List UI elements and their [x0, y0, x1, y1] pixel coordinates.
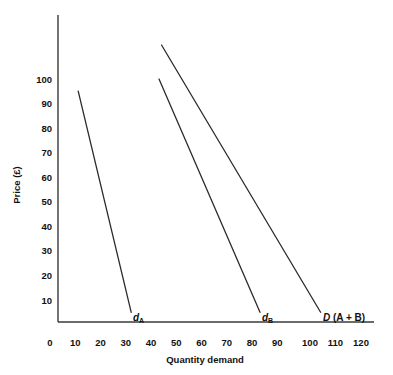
curve-label-db-subscript: B: [268, 317, 273, 324]
curve-db: [159, 79, 260, 312]
x-axis-tick-labels: 0 10 20 30 40 50 60 70 80 90 100 110 120: [47, 337, 369, 348]
y-tick-label-50: 50: [41, 196, 52, 207]
y-axis-tick-labels: 10 20 30 40 50 60 70 80 90 100: [36, 74, 52, 306]
demand-curves: [78, 45, 320, 312]
x-tick-label-0: 0: [47, 337, 52, 348]
curve-label-d-ab-suffix: (A + B): [330, 312, 365, 323]
chart-axes: [58, 15, 374, 322]
y-tick-label-60: 60: [41, 172, 52, 183]
x-tick-label-10: 10: [70, 337, 81, 348]
y-tick-label-30: 30: [41, 245, 52, 256]
x-tick-label-50: 50: [171, 337, 182, 348]
x-tick-label-40: 40: [146, 337, 157, 348]
x-tick-label-70: 70: [222, 337, 233, 348]
x-axis-title: Quantity demand: [166, 354, 244, 365]
y-tick-label-10: 10: [41, 295, 52, 306]
x-tick-label-100: 100: [302, 337, 318, 348]
y-tick-label-70: 70: [41, 147, 52, 158]
x-tick-label-90: 90: [272, 337, 283, 348]
curve-label-d-ab: D (A + B): [323, 312, 365, 323]
curve-label-d-ab-symbol: D: [323, 312, 330, 323]
curve-label-db: dB: [262, 312, 273, 325]
curve-d-ab: [162, 45, 321, 312]
x-tick-label-60: 60: [196, 337, 207, 348]
y-tick-label-40: 40: [41, 221, 52, 232]
curve-label-da-subscript: A: [139, 317, 144, 324]
x-tick-label-120: 120: [353, 337, 369, 348]
y-tick-label-100: 100: [36, 74, 52, 85]
y-tick-label-80: 80: [41, 123, 52, 134]
demand-curve-chart: 10 20 30 40 50 60 70 80 90 100 0 10 20 3…: [0, 0, 393, 375]
x-tick-label-80: 80: [247, 337, 258, 348]
curve-da: [78, 91, 131, 312]
x-tick-label-110: 110: [328, 337, 343, 348]
curve-label-da: dA: [133, 312, 144, 325]
y-tick-label-90: 90: [41, 98, 52, 109]
y-tick-label-20: 20: [41, 270, 52, 281]
y-axis-title: Price (£): [11, 166, 22, 204]
x-tick-label-20: 20: [95, 337, 106, 348]
x-tick-label-30: 30: [121, 337, 132, 348]
